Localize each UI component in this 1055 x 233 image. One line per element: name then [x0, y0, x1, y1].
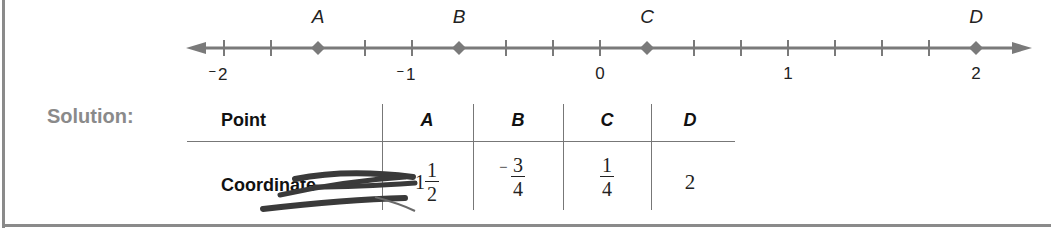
table-divider: [563, 104, 564, 210]
point-marker-c: [640, 41, 654, 55]
point-label-c: C: [640, 6, 654, 28]
tick-label: 1: [783, 64, 792, 84]
point-marker-b: [452, 41, 466, 55]
table-divider: [473, 104, 474, 210]
point-marker-d: [969, 41, 983, 55]
table-header-point: Point: [221, 110, 266, 131]
table-header-a: A: [421, 110, 434, 131]
solution-heading: Solution:: [47, 105, 134, 128]
tick-label: 2: [971, 64, 980, 84]
frame-bottom-border: [2, 224, 1051, 227]
point-marker-a: [311, 41, 325, 55]
point-label-a: A: [312, 6, 325, 28]
coordinate-a: 112: [415, 160, 439, 204]
tick-label: −2: [208, 64, 227, 85]
coordinate-d: 2: [685, 170, 696, 195]
point-label-d: D: [969, 6, 983, 28]
table-header-c: C: [601, 110, 614, 131]
tick-label: 0: [595, 64, 604, 84]
table-header-d: D: [684, 110, 697, 131]
table-divider: [651, 104, 652, 210]
point-label-b: B: [453, 6, 466, 28]
coordinate-c: 14: [600, 155, 614, 199]
number-line: [0, 0, 1055, 100]
table-header-rule: [187, 141, 735, 142]
scribble-mark: [255, 165, 425, 215]
coordinate-b: − 34: [511, 155, 525, 199]
table-header-b: B: [512, 110, 525, 131]
tick-label: −1: [396, 64, 415, 85]
